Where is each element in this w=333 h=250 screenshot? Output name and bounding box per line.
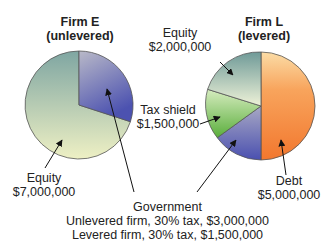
- firm-l-debt-slice: [261, 52, 315, 160]
- government-unlevered-text: Unlevered firm, 30% tax, $3,000,000: [60, 214, 275, 228]
- debt-label-text: Debt: [254, 174, 324, 188]
- tax-shield-label-text: Tax shield: [132, 103, 204, 117]
- equity-value-text: $2,000,000: [140, 40, 220, 54]
- firm-l-title: Firm L (levered): [224, 15, 304, 43]
- firm-e-subtitle: (unlevered): [40, 29, 120, 43]
- government-label: Government Unlevered firm, 30% tax, $3,0…: [60, 200, 275, 242]
- government-levered-text: Levered firm, 30% tax, $1,500,000: [60, 228, 275, 242]
- firm-l-pie: [206, 52, 315, 160]
- firm-e-equity-label: Equity $7,000,000: [12, 171, 76, 199]
- firm-l-equity-label: Equity $2,000,000: [140, 26, 220, 54]
- firm-e-pie: [25, 51, 133, 159]
- firm-e-title: Firm E (unlevered): [40, 15, 120, 43]
- firm-e-title-text: Firm E: [40, 15, 120, 29]
- equity-label-text: Equity: [140, 26, 220, 40]
- arrow-firm-l-government: [197, 140, 236, 192]
- firm-l-title-text: Firm L: [224, 15, 304, 29]
- government-label-text: Government: [60, 200, 275, 214]
- firm-l-subtitle: (levered): [224, 29, 304, 43]
- firm-e-equity-value-text: $7,000,000: [12, 185, 76, 199]
- tax-shield-label: Tax shield $1,500,000: [132, 103, 204, 131]
- firm-e-equity-label-text: Equity: [12, 171, 76, 185]
- debt-label: Debt $5,000,000: [254, 174, 324, 202]
- tax-shield-value-text: $1,500,000: [132, 117, 204, 131]
